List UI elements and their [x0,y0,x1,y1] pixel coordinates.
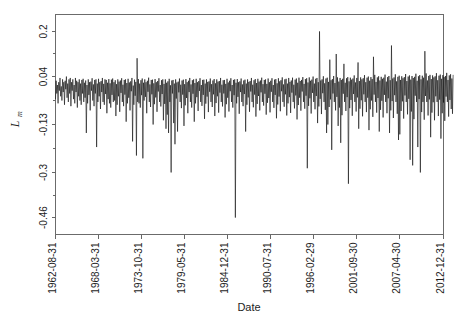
y-tick-label: -0.3 [38,163,49,181]
x-tick-label: 2001-09-30 [348,242,359,294]
x-axis-title: Date [237,301,260,313]
y-axis-tick-labels: 0.20.04-0.13-0.3-0.46 [38,24,49,229]
x-tick-label: 1973-10-31 [133,242,144,294]
series-line [56,31,454,217]
y-axis-ticks [52,31,56,217]
x-tick-label: 1968-03-31 [90,242,101,294]
y-tick-label: -0.46 [38,206,49,229]
x-axis-tick-labels: 1962-08-311968-03-311973-10-311979-05-31… [47,242,446,294]
y-axis-title-base: L [8,120,22,128]
y-axis-title: L m [8,111,24,128]
y-axis-title-subscript: m [15,111,24,117]
time-series-chart: 0.20.04-0.13-0.3-0.46 1962-08-311968-03-… [0,0,458,320]
x-tick-label: 1962-08-31 [47,242,58,294]
y-tick-label: -0.13 [38,113,49,136]
x-axis-ticks [56,235,444,239]
x-tick-label: 2007-04-30 [391,242,402,294]
plot-svg: 0.20.04-0.13-0.3-0.46 1962-08-311968-03-… [0,0,458,320]
x-tick-label: 1979-05-31 [176,242,187,294]
plot-frame [56,15,444,235]
x-tick-label: 1984-12-31 [219,242,230,294]
x-tick-label: 2012-12-31 [435,242,446,294]
y-tick-label: 0.2 [38,24,49,38]
x-tick-label: 1990-07-31 [262,242,273,294]
chart-page: 0.20.04-0.13-0.3-0.46 1962-08-311968-03-… [0,0,458,320]
y-tick-label: 0.04 [38,66,49,86]
x-tick-label: 1996-02-29 [305,242,316,294]
